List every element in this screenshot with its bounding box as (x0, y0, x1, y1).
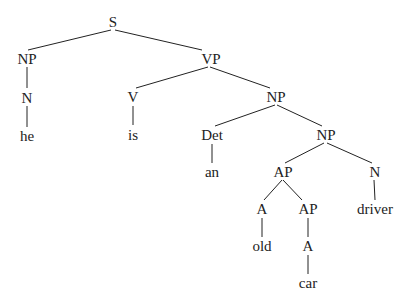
edge-ap1-to-ap2 (283, 180, 302, 200)
tree-node-a1: A (257, 201, 268, 217)
tree-node-s: S (109, 14, 117, 30)
edge-np3-to-ap1 (285, 143, 324, 163)
tree-node-driver: driver (357, 201, 393, 217)
tree-node-is: is (128, 127, 138, 143)
edge-np3-to-n2 (327, 143, 372, 163)
tree-node-np3: NP (316, 127, 335, 143)
tree-node-old: old (252, 238, 272, 254)
edge-n2-to-driver (374, 180, 375, 200)
tree-node-n1: N (22, 90, 33, 106)
tree-nodes: SNPVPNheVisNPDetanNPAPNdriverAAPoldAcar (17, 14, 393, 291)
tree-node-ap2: AP (298, 201, 317, 217)
tree-node-det: Det (201, 127, 223, 143)
tree-node-car: car (299, 275, 317, 291)
syntax-tree-diagram: SNPVPNheVisNPDetanNPAPNdriverAAPoldAcar (0, 0, 404, 302)
tree-node-np2: NP (266, 89, 285, 105)
tree-node-he: he (20, 128, 35, 144)
tree-node-n2: N (370, 164, 381, 180)
tree-node-np1: NP (17, 51, 36, 67)
tree-node-ap1: AP (273, 164, 292, 180)
tree-node-a2: A (303, 238, 314, 254)
edge-vp-to-v (136, 67, 208, 88)
tree-node-vp: VP (201, 51, 220, 67)
tree-node-an: an (205, 164, 220, 180)
edge-vp-to-np2 (210, 67, 270, 88)
edge-s-to-vp (115, 30, 202, 50)
edge-ap1-to-a1 (264, 180, 282, 200)
edge-np2-to-np3 (277, 105, 322, 126)
edge-s-to-np1 (28, 30, 111, 50)
edge-np2-to-det (215, 105, 275, 126)
tree-node-v: V (128, 89, 139, 105)
